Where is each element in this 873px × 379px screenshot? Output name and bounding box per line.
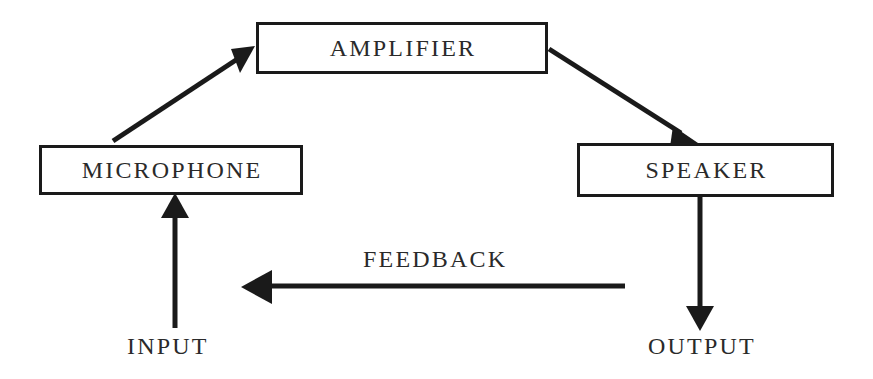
- node-amplifier-label: AMPLIFIER: [328, 36, 476, 60]
- node-speaker-label: SPEAKER: [643, 158, 767, 182]
- node-microphone: MICROPHONE: [39, 145, 303, 195]
- diagram-canvas: AMPLIFIER MICROPHONE SPEAKER FEEDBACK IN…: [0, 0, 873, 379]
- connector-feedback-loop-icon: [241, 270, 625, 304]
- terminal-label-output: OUTPUT: [648, 334, 756, 358]
- node-speaker: SPEAKER: [577, 143, 834, 197]
- node-amplifier: AMPLIFIER: [256, 22, 548, 74]
- edge-label-feedback: FEEDBACK: [363, 247, 507, 271]
- terminal-label-input: INPUT: [127, 334, 209, 358]
- connector-speaker-to-output-icon: [686, 197, 714, 331]
- connector-amplifier-to-speaker-icon: [549, 49, 698, 147]
- node-microphone-label: MICROPHONE: [80, 158, 263, 182]
- connector-input-to-microphone-icon: [161, 193, 189, 328]
- connector-microphone-to-amplifier-icon: [113, 46, 255, 141]
